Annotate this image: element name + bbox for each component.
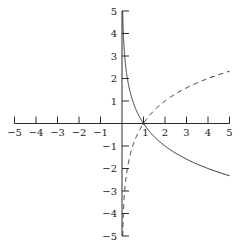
y-tick-label: 4 <box>111 28 117 39</box>
x-tick-label: −2 <box>72 127 87 138</box>
x-tick-label: 4 <box>205 127 211 138</box>
x-tick-label: 1 <box>142 127 148 138</box>
y-tick-label: −3 <box>102 186 117 197</box>
chart-canvas: −5−4−3−2−112345 −5−4−3−2−112345 <box>0 0 240 250</box>
x-tick-label: 3 <box>183 127 189 138</box>
x-tick-label: 5 <box>226 127 232 138</box>
x-tick-label: 2 <box>162 127 168 138</box>
y-tick-label: 2 <box>111 73 117 84</box>
y-tick-label: −2 <box>102 163 117 174</box>
y-tick-label: −5 <box>102 231 117 242</box>
y-tick-label: 5 <box>111 6 117 17</box>
y-tick-label: −4 <box>102 208 117 219</box>
x-tick-label: −4 <box>29 127 44 138</box>
x-tick-label: −5 <box>7 127 22 138</box>
solid-curve-log-half <box>123 11 230 176</box>
x-tick-label: −3 <box>50 127 65 138</box>
x-axis-tick-labels: −5−4−3−2−112345 <box>7 127 233 138</box>
y-tick-label: 3 <box>111 51 117 62</box>
x-axis: −5−4−3−2−112345 <box>7 117 233 138</box>
intersection-point <box>142 122 144 124</box>
y-tick-label: −1 <box>102 141 117 152</box>
x-tick-label: −1 <box>93 127 108 138</box>
y-tick-label: 1 <box>111 96 117 107</box>
